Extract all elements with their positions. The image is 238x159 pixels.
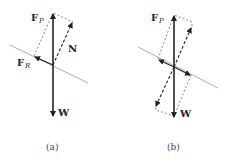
label-w: W xyxy=(179,108,192,119)
caption-a: (a) xyxy=(46,142,58,152)
figure-b: FP W xyxy=(138,12,218,119)
force-diagram: FP N FR W FP W (a) (b) xyxy=(0,0,238,159)
component-up-arrow xyxy=(174,28,191,67)
label-fp: FP xyxy=(31,12,44,25)
incline-line xyxy=(138,47,218,88)
component-down-arrow xyxy=(156,67,174,106)
component-left-arrow xyxy=(159,60,174,67)
label-w: W xyxy=(57,107,70,118)
caption-b: (b) xyxy=(167,142,180,152)
label-fr: FR xyxy=(17,57,31,70)
label-n: N xyxy=(68,43,77,54)
force-fr-arrow xyxy=(35,57,53,65)
label-fp: FP xyxy=(151,12,164,25)
component-right-arrow xyxy=(174,67,190,75)
figure-a: FP N FR W xyxy=(10,12,88,118)
